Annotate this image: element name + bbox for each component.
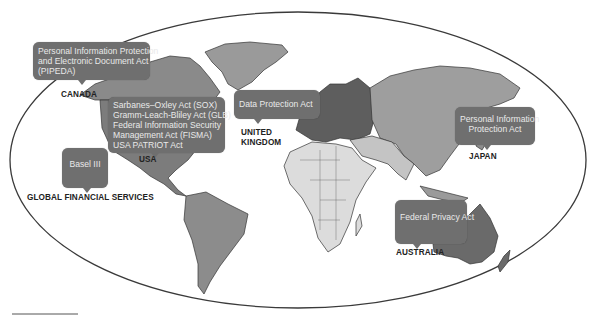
callout-canada-pipeda: Personal Information Protection and Elec… (33, 42, 150, 80)
callout-global-basel: Basel III (62, 148, 108, 188)
callout-line: Personal Information Protection (38, 46, 145, 56)
label-uk-line1: UNITED (241, 128, 272, 138)
label-uk-line2: KINGDOM (241, 138, 281, 148)
callout-line: (PIPEDA) (38, 66, 145, 76)
callout-uk-dpa: Data Protection Act (234, 90, 320, 119)
callout-line: Sarbanes–Oxley Act (SOX) (113, 100, 220, 110)
label-canada: CANADA (61, 90, 97, 100)
callout-usa-laws: Sarbanes–Oxley Act (SOX) Gramm-Leach-Bli… (108, 97, 225, 153)
new-zealand-shape (498, 250, 510, 272)
callout-line: Personal Information (460, 114, 530, 124)
callout-line: Data Protection Act (239, 99, 315, 109)
africa-shape (284, 142, 376, 252)
callout-australia-fpa: Federal Privacy Act (395, 200, 467, 244)
label-usa: USA (139, 155, 157, 165)
label-global-financial-services: GLOBAL FINANCIAL SERVICES (27, 193, 154, 203)
label-australia: AUSTRALIA (396, 248, 444, 258)
callout-line: USA PATRIOT Act (113, 140, 220, 150)
callout-line: Gramm-Leach-Bliley Act (GLB) (113, 110, 220, 120)
south-america-shape (184, 192, 248, 294)
callout-line: Basel III (67, 159, 103, 169)
callout-line: Federal Privacy Act (400, 212, 462, 222)
madagascar-shape (356, 214, 362, 236)
callout-japan-pipa: Personal Information Protection Act (455, 107, 535, 145)
callout-line: Federal Information Security (113, 120, 220, 130)
callout-line: and Electronic Document Act (38, 56, 145, 66)
greenland-shape (205, 42, 288, 90)
callout-line: Management Act (FISMA) (113, 130, 220, 140)
label-japan: JAPAN (469, 152, 497, 162)
callout-line: Protection Act (460, 124, 530, 134)
